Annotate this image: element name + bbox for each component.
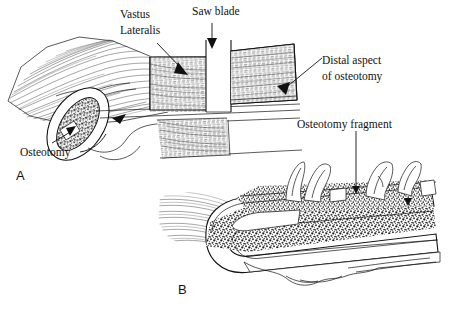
distal-bone-segment (228, 42, 302, 108)
label-osteotomy: Osteotomy (20, 146, 71, 159)
saw-blade (206, 40, 231, 112)
label-osteotomy-fragment: Osteotomy fragment (297, 118, 393, 131)
label-distal-aspect-line2: of osteotomy (322, 70, 383, 83)
panel-letter-a: A (16, 168, 25, 183)
panel-letter-b: B (178, 282, 187, 297)
figure-container: Vastus Lateralis Saw blade Distal aspect… (0, 0, 451, 310)
osteotomy-illustration: Vastus Lateralis Saw blade Distal aspect… (0, 0, 451, 310)
label-vastus-lateralis-line1: Vastus (120, 8, 151, 20)
panel-b-group (156, 162, 444, 286)
femoral-shaft-panel-a (88, 104, 302, 164)
label-vastus-lateralis-line2: Lateralis (120, 24, 161, 36)
label-saw-blade: Saw blade (192, 5, 240, 17)
label-distal-aspect-line1: Distal aspect (322, 54, 382, 67)
